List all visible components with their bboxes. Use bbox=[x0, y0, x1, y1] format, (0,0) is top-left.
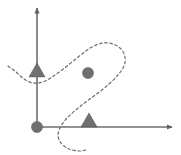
marker-triangle[interactable] bbox=[29, 63, 45, 77]
axes-group bbox=[37, 8, 172, 127]
dashed-curve-path bbox=[8, 43, 125, 151]
dashed-curve-group bbox=[8, 43, 125, 151]
marker-circle[interactable] bbox=[32, 122, 43, 133]
figure-container bbox=[0, 0, 181, 155]
axes-diagram-svg bbox=[0, 0, 181, 155]
marker-triangle[interactable] bbox=[81, 113, 97, 127]
marker-circle[interactable] bbox=[83, 68, 94, 79]
